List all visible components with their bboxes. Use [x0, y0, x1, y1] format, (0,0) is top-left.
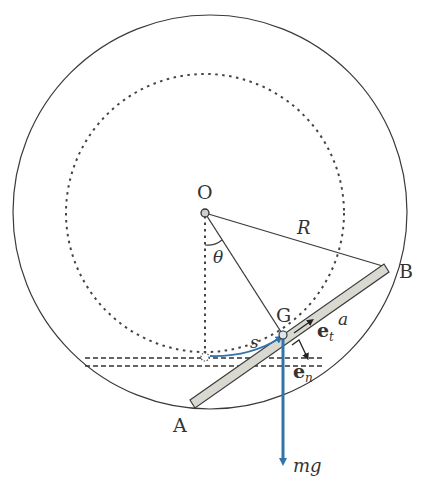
label-et-base: e: [317, 319, 329, 341]
center-of-mass-g: [279, 331, 287, 339]
label-en: en: [293, 360, 313, 385]
label-et: et: [317, 319, 334, 344]
label-a-length: a: [338, 309, 348, 329]
label-b: B: [399, 260, 413, 282]
radius-line: [205, 213, 386, 267]
pivot-o: [201, 209, 209, 217]
theta-arc: [205, 240, 222, 245]
label-theta: θ: [213, 247, 223, 267]
label-mg: mg: [293, 455, 322, 476]
label-en-sub: n: [305, 371, 313, 385]
label-a: A: [172, 414, 187, 436]
og-line: [205, 213, 283, 335]
diagram-canvas: O R θ B G a s et en A mg: [0, 0, 421, 493]
normal-vector-arrow: [292, 340, 307, 357]
label-en-base: e: [293, 360, 305, 382]
label-s: s: [250, 332, 259, 352]
lowest-point-marker: [201, 353, 209, 361]
rod-ab: [190, 264, 389, 408]
label-o: O: [197, 181, 213, 203]
label-g: G: [276, 304, 291, 326]
label-r: R: [296, 217, 311, 238]
label-et-sub: t: [329, 330, 334, 344]
